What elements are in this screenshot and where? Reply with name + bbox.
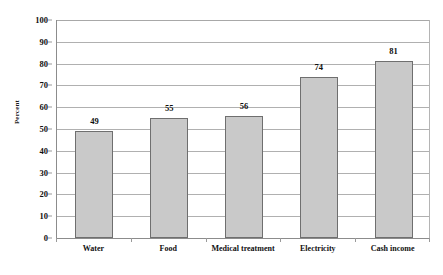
y-axis-tick-label: 80	[40, 59, 49, 68]
y-axis-tick-label: 60	[40, 103, 49, 112]
bar-slot: 81	[356, 20, 431, 238]
x-axis-tick-mark	[355, 238, 356, 242]
x-axis-category-label: Food	[160, 244, 177, 254]
x-axis-category-labels: WaterFoodMedical treatmentElectricityCas…	[56, 244, 430, 260]
x-axis-category-label: Cash income	[371, 244, 415, 254]
y-axis-tick-mark	[48, 150, 52, 151]
y-axis-tick-mark	[48, 238, 52, 239]
bar[interactable]	[375, 61, 413, 238]
y-axis-tick-label: 100	[35, 16, 48, 25]
bar-slot: 74	[281, 20, 356, 238]
plot-area: 4955567481	[56, 20, 430, 238]
bar[interactable]	[300, 77, 338, 238]
y-axis-tick-label: 50	[40, 125, 49, 134]
y-axis-tick-label: 10	[40, 212, 49, 221]
y-axis-tick-mark	[48, 41, 52, 42]
x-axis-tick-mark	[131, 238, 132, 242]
bar-value-label: 74	[315, 63, 324, 72]
y-axis-tick-mark	[48, 20, 52, 21]
x-axis-tick-mark	[206, 238, 207, 242]
y-axis-tick-label: 30	[40, 168, 49, 177]
x-axis-category-label: Electricity	[300, 244, 336, 254]
bar-value-label: 49	[90, 117, 99, 126]
bar-chart: Percent 1009080706050403020100 495556748…	[0, 0, 443, 275]
y-axis-tick-label: 20	[40, 190, 49, 199]
bar-value-label: 55	[165, 104, 174, 113]
bar-slot: 56	[207, 20, 282, 238]
x-axis-category-label: Medical treatment	[211, 244, 274, 254]
y-axis-tick-mark	[48, 216, 52, 217]
y-axis-tick-label: 90	[40, 38, 49, 47]
bar[interactable]	[225, 116, 263, 238]
bar-series: 4955567481	[57, 20, 429, 238]
bar-slot: 49	[57, 20, 132, 238]
x-axis-tick-mark	[280, 238, 281, 242]
bar[interactable]	[150, 118, 188, 238]
x-axis-category-label: Water	[83, 244, 104, 254]
y-axis-tick-mark	[48, 107, 52, 108]
y-axis-tick-label: 70	[40, 81, 49, 90]
y-axis-tick-mark	[48, 85, 52, 86]
x-axis-tick-mark	[56, 238, 57, 242]
y-axis-tick-labels: 1009080706050403020100	[24, 20, 52, 238]
y-axis-title: Percent	[13, 82, 21, 142]
bar-slot: 55	[132, 20, 207, 238]
y-axis-tick-label: 40	[40, 147, 49, 156]
y-axis-tick-mark	[48, 129, 52, 130]
x-axis-tick-mark	[429, 238, 430, 242]
bar-value-label: 81	[389, 47, 398, 56]
y-axis-tick-mark	[48, 172, 52, 173]
bar[interactable]	[75, 131, 113, 238]
y-axis-tick-mark	[48, 63, 52, 64]
bar-value-label: 56	[240, 102, 249, 111]
y-axis-tick-mark	[48, 194, 52, 195]
